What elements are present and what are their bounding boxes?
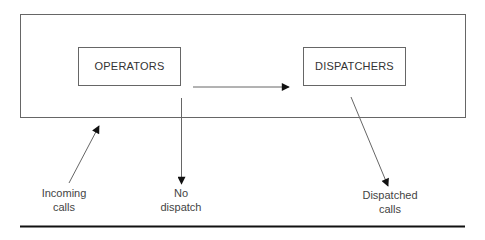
no-dispatch-line2: dispatch: [151, 200, 211, 214]
dispatched-calls-line1: Dispatched: [355, 188, 425, 202]
incoming-calls-caption: Incoming calls: [34, 186, 94, 214]
incoming-calls-line1: Incoming: [34, 186, 94, 200]
incoming-calls-line2: calls: [34, 200, 94, 214]
dispatchers-label: DISPATCHERS: [303, 60, 406, 72]
arrow-dispatched-calls: [351, 97, 388, 186]
no-dispatch-line1: No: [151, 186, 211, 200]
dispatched-calls-line2: calls: [355, 202, 425, 216]
arrow-incoming-calls: [69, 126, 99, 183]
no-dispatch-caption: No dispatch: [151, 186, 211, 214]
operators-label: OPERATORS: [78, 60, 181, 72]
dispatched-calls-caption: Dispatched calls: [355, 188, 425, 216]
